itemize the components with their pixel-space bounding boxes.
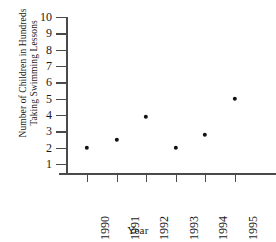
data-point (203, 132, 207, 136)
y-tick (56, 50, 67, 51)
y-tick-label: 1 (26, 158, 52, 170)
y-tick-label-wrap: 7 (26, 66, 52, 67)
y-tick-label: 7 (26, 60, 52, 72)
y-tick-label-wrap: 4 (26, 115, 52, 116)
x-axis-title: Year (0, 224, 276, 236)
x-tick (117, 174, 118, 182)
y-tick-label: 8 (26, 44, 52, 56)
x-tick (235, 174, 236, 182)
y-tick-label-wrap: 5 (26, 99, 52, 100)
data-point (173, 145, 177, 149)
y-tick-label: 6 (26, 76, 52, 88)
y-tick-label-wrap: 6 (26, 82, 52, 83)
y-tick (56, 131, 67, 132)
y-tick-label: 10 (26, 11, 52, 23)
y-tick-label: 4 (26, 109, 52, 121)
x-tick (87, 174, 88, 182)
x-tick (176, 174, 177, 182)
scatter-chart: Number of Children in Hundreds Taking Sw… (0, 0, 276, 242)
y-tick (56, 164, 67, 165)
y-tick-label: 2 (26, 142, 52, 154)
data-point (232, 96, 236, 100)
y-tick (56, 148, 67, 149)
y-tick-label-wrap: 3 (26, 131, 52, 132)
x-axis-line (59, 173, 276, 175)
y-tick-label: 5 (26, 93, 52, 105)
data-point (144, 114, 148, 118)
y-tick-label-wrap: 9 (26, 33, 52, 34)
y-tick (56, 33, 67, 34)
y-tick (56, 66, 67, 67)
y-tick-label: 9 (26, 27, 52, 39)
x-tick (146, 174, 147, 182)
y-tick-label: 3 (26, 125, 52, 137)
y-tick (56, 115, 67, 116)
x-tick (205, 174, 206, 182)
y-tick-label-wrap: 10 (26, 17, 52, 18)
y-tick (56, 99, 67, 100)
y-tick (56, 17, 67, 18)
y-tick-label-wrap: 1 (26, 164, 52, 165)
y-tick-label-wrap: 8 (26, 50, 52, 51)
y-tick-label-wrap: 2 (26, 148, 52, 149)
data-point (85, 145, 89, 149)
data-point (114, 137, 118, 141)
y-tick (56, 82, 67, 83)
y-axis-line (66, 17, 68, 174)
